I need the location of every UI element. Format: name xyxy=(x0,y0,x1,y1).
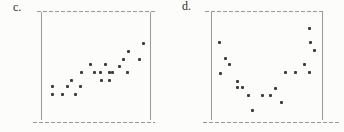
panel-c-bottom-dashed-rule xyxy=(33,122,155,123)
scatter-point xyxy=(294,71,297,74)
scatter-point xyxy=(251,109,254,112)
scatter-point xyxy=(93,71,96,74)
panel-d-bottom-dashed-rule xyxy=(203,122,341,123)
panel-d-plot xyxy=(211,11,323,121)
scatter-point xyxy=(70,79,73,82)
scatter-point xyxy=(308,71,311,74)
scatter-point xyxy=(51,85,54,88)
scatter-point xyxy=(100,79,103,82)
scatter-point xyxy=(118,65,121,68)
scatter-point xyxy=(309,41,312,44)
scatter-point xyxy=(308,27,311,30)
scatter-point xyxy=(127,50,130,53)
scatter-point xyxy=(142,42,145,45)
scatter-point xyxy=(74,93,77,96)
scatter-point xyxy=(303,63,306,66)
scatter-point xyxy=(138,58,141,61)
scatter-point xyxy=(51,93,54,96)
scatter-point xyxy=(280,101,283,104)
scatter-point xyxy=(236,86,239,89)
scatter-point xyxy=(79,85,82,88)
scatter-point xyxy=(80,71,83,74)
scatter-point xyxy=(126,71,129,74)
scatter-point xyxy=(104,63,107,66)
scatter-point xyxy=(269,94,272,97)
scatter-point xyxy=(284,71,287,74)
scatter-point xyxy=(236,80,239,83)
scatter-point xyxy=(99,71,102,74)
scatter-point xyxy=(218,41,221,44)
scatter-point xyxy=(89,63,92,66)
scatter-point xyxy=(313,49,316,52)
panel-c-points xyxy=(43,14,149,118)
scatter-point xyxy=(261,94,264,97)
scatter-point xyxy=(241,86,244,89)
scatter-point xyxy=(66,85,69,88)
scatter-point xyxy=(224,57,227,60)
scatterplot-figure: c. d. xyxy=(0,0,344,132)
scatter-point xyxy=(61,93,64,96)
scatter-point xyxy=(274,87,277,90)
panel-c-plot xyxy=(41,11,151,121)
scatter-point xyxy=(219,72,222,75)
scatter-point xyxy=(111,71,114,74)
scatter-point xyxy=(122,58,125,61)
scatter-point xyxy=(228,63,231,66)
panel-d-points xyxy=(213,14,321,118)
scatter-point xyxy=(108,79,111,82)
panel-d-label: d. xyxy=(182,0,191,12)
panel-c-label: c. xyxy=(13,1,21,13)
scatter-point xyxy=(247,94,250,97)
